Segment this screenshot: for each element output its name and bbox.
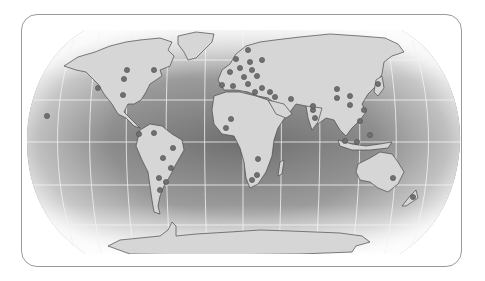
location-marker-europe[interactable] [233, 56, 238, 61]
location-marker-europe[interactable] [254, 73, 259, 78]
location-marker-south-america[interactable] [156, 175, 161, 180]
location-marker-europe[interactable] [245, 81, 250, 86]
location-marker-europe[interactable] [230, 83, 235, 88]
location-marker-europe[interactable] [267, 89, 272, 94]
location-marker-southeast-asia[interactable] [342, 138, 347, 143]
location-marker-europe[interactable] [252, 89, 257, 94]
location-marker-europe[interactable] [259, 57, 264, 62]
location-marker-asia[interactable] [334, 86, 339, 91]
location-marker-asia[interactable] [312, 115, 317, 120]
location-marker-oceania-new-zealand[interactable] [410, 194, 415, 199]
location-marker-north-america[interactable] [124, 67, 129, 72]
location-marker-south-america[interactable] [168, 165, 173, 170]
location-marker-africa[interactable] [228, 116, 233, 121]
location-marker-north-america[interactable] [151, 67, 156, 72]
location-marker-africa[interactable] [255, 156, 260, 161]
location-marker-south-america[interactable] [163, 179, 168, 184]
location-marker-asia[interactable] [347, 102, 352, 107]
location-marker-africa[interactable] [249, 177, 254, 182]
location-marker-europe[interactable] [245, 47, 250, 52]
location-marker-southeast-asia[interactable] [367, 132, 372, 137]
location-marker-middle-east[interactable] [272, 94, 277, 99]
location-marker-south-america[interactable] [151, 130, 156, 135]
location-marker-asia[interactable] [357, 118, 362, 123]
location-marker-north-america[interactable] [120, 92, 125, 97]
location-marker-europe[interactable] [259, 85, 264, 90]
location-marker-africa[interactable] [254, 172, 259, 177]
location-marker-south-america[interactable] [160, 155, 165, 160]
location-marker-north-america[interactable] [95, 85, 100, 90]
world-map [0, 0, 485, 281]
location-marker-pacific-hawaii[interactable] [44, 113, 49, 118]
location-marker-asia[interactable] [334, 95, 339, 100]
location-marker-middle-east[interactable] [288, 96, 293, 101]
location-marker-europe[interactable] [249, 67, 254, 72]
location-marker-oceania-australia[interactable] [390, 175, 395, 180]
location-marker-south-america[interactable] [136, 131, 141, 136]
location-marker-southeast-asia[interactable] [354, 139, 359, 144]
location-marker-europe[interactable] [241, 74, 246, 79]
location-marker-europe[interactable] [237, 65, 242, 70]
location-marker-asia[interactable] [310, 103, 315, 108]
location-marker-asia-japan[interactable] [375, 81, 380, 86]
location-marker-south-america[interactable] [157, 187, 162, 192]
ocean [20, 25, 470, 260]
location-marker-asia[interactable] [361, 107, 366, 112]
location-marker-north-america[interactable] [121, 76, 126, 81]
location-marker-europe[interactable] [247, 59, 252, 64]
location-marker-asia[interactable] [347, 93, 352, 98]
location-marker-south-america[interactable] [170, 145, 175, 150]
location-marker-africa[interactable] [223, 125, 228, 130]
location-marker-europe[interactable] [219, 82, 224, 87]
location-marker-europe[interactable] [227, 69, 232, 74]
